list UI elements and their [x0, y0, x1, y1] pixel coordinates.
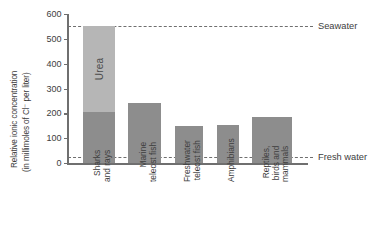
- y-axis-title: Relative ionic concentration (in millimo…: [0, 0, 40, 175]
- x-axis-label-sharks-and-rays: Sharksand rays: [93, 150, 112, 182]
- bar-segment-label-urea: Urea: [94, 58, 105, 80]
- y-tick-label: 0: [56, 158, 61, 168]
- y-axis-title-line1: Relative ionic concentration: [10, 71, 21, 168]
- y-tick-label: 100: [46, 133, 61, 143]
- reference-line-label-seawater: Seawater: [318, 21, 357, 31]
- y-tick-mark: [64, 113, 68, 114]
- y-tick-label: 200: [46, 108, 61, 118]
- x-axis-label-amphibians: Amphibians: [227, 138, 237, 182]
- x-axis-label-freshwater-teleost-fish: Freshwaterteleost fish: [183, 140, 202, 182]
- y-tick-label: 300: [46, 84, 61, 94]
- bar-sharks-and-rays: Urea: [83, 26, 115, 163]
- y-tick-label: 500: [46, 34, 61, 44]
- x-axis-label-line: mammals: [281, 146, 291, 182]
- y-tick-mark: [64, 89, 68, 90]
- x-axis-label-marine-teleost-fish: Marineteleost fish: [139, 142, 158, 182]
- ionic-concentration-bar-chart: Relative ionic concentration (in millimo…: [0, 0, 385, 230]
- y-tick-mark: [64, 14, 68, 15]
- y-tick-label: 400: [46, 59, 61, 69]
- x-axis-label-line: Reptiles,: [262, 146, 272, 182]
- y-tick-mark: [64, 163, 68, 164]
- y-tick-label: 600: [46, 9, 61, 19]
- y-tick-mark: [64, 138, 68, 139]
- reference-line-label-fresh-water: Fresh water: [318, 152, 367, 162]
- y-tick-mark: [64, 64, 68, 65]
- x-axis-label-line: teleost fish: [148, 142, 158, 182]
- plot-area: 0100200300400500600 SeawaterFresh water …: [67, 14, 308, 163]
- y-axis-title-line2: (in millimoles of Cl⁻ per liter): [22, 72, 33, 172]
- x-axis-label-reptiles-birds-and-mammals: Reptiles,birds andmammals: [262, 146, 291, 182]
- x-axis-label-line: and rays: [103, 150, 113, 182]
- x-axis-label-line: Amphibians: [227, 138, 237, 182]
- x-axis-label-line: teleost fish: [193, 140, 203, 182]
- bar-segment-urea: Urea: [83, 26, 115, 112]
- y-tick-mark: [64, 39, 68, 40]
